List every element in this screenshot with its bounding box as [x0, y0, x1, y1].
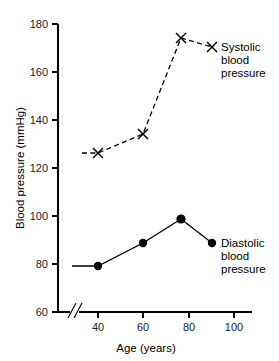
x-tick-label-100: 100 [225, 321, 243, 333]
diastolic-marker-age-77 [176, 214, 185, 223]
y-axis-title: Blood pressure (mmHg) [14, 107, 26, 229]
y-tick-label-140: 140 [30, 114, 48, 126]
diastolic-label-line-1: Diastolic [221, 237, 265, 249]
blood-pressure-chart: 180 160 140 120 100 80 60 40 60 80 100 A… [0, 0, 279, 361]
series-systolic [82, 33, 217, 158]
axis-break-icon [68, 303, 82, 318]
y-tick-label-80: 80 [36, 258, 48, 270]
x-tick-label-40: 40 [92, 321, 104, 333]
x-tick-label-60: 60 [137, 321, 149, 333]
diastolic-label: Diastolic blood pressure [221, 237, 266, 275]
systolic-label-line-3: pressure [221, 67, 266, 79]
y-tick-label-60: 60 [36, 306, 48, 318]
systolic-label: Systolic blood pressure [221, 41, 266, 79]
systolic-marker-age-90 [207, 42, 217, 52]
diastolic-marker-age-90 [208, 239, 216, 247]
y-tick-label-160: 160 [30, 66, 48, 78]
systolic-marker-age-77 [176, 33, 186, 43]
y-axis-ticks [52, 24, 58, 312]
chart-canvas: 180 160 140 120 100 80 60 40 60 80 100 A… [0, 0, 279, 361]
systolic-label-line-2: blood [221, 54, 249, 66]
x-axis-tick-labels: 40 60 80 100 [92, 321, 243, 333]
systolic-label-line-1: Systolic [221, 41, 261, 53]
series-diastolic [72, 214, 216, 270]
systolic-line [82, 38, 212, 153]
systolic-marker-age-60 [138, 129, 148, 139]
diastolic-label-line-2: blood [221, 250, 249, 262]
y-axis-tick-labels: 180 160 140 120 100 80 60 [30, 18, 48, 318]
x-axis-ticks [98, 312, 234, 318]
y-tick-label-180: 180 [30, 18, 48, 30]
y-tick-label-100: 100 [30, 210, 48, 222]
diastolic-marker-age-40 [94, 262, 102, 270]
x-tick-label-80: 80 [183, 321, 195, 333]
diastolic-marker-age-60 [139, 239, 147, 247]
y-tick-label-120: 120 [30, 162, 48, 174]
x-axis-title: Age (years) [116, 342, 176, 354]
diastolic-label-line-3: pressure [221, 263, 266, 275]
